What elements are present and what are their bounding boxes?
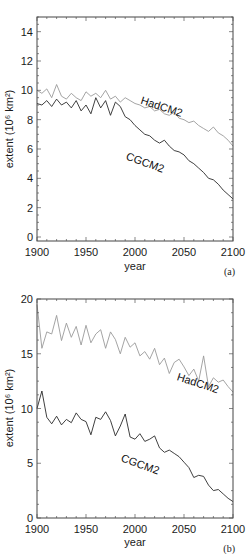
panel-b-label: (b) xyxy=(223,543,235,554)
panel-b-y-axis-title: extent (10⁶ km²) xyxy=(3,369,15,448)
panel-a-label: (a) xyxy=(224,266,235,278)
panel-a-lines: HadCM2CGCM2 xyxy=(37,85,233,199)
y-tick-label: 14 xyxy=(21,26,33,38)
x-tick-label: 1950 xyxy=(74,246,98,258)
panel-b-ticks xyxy=(37,299,233,518)
y-tick-label: 0 xyxy=(27,231,33,243)
y-tick-label: 8 xyxy=(27,114,33,126)
y-tick-label: 10 xyxy=(21,403,33,415)
panel-b-lines: HadCM2CGCM2 xyxy=(37,305,233,502)
series-line-hadcm2 xyxy=(37,85,233,147)
panel-a-x-axis-title: year xyxy=(124,260,146,272)
y-tick-label: 2 xyxy=(27,202,33,214)
panel-b: HadCM2CGCM2 1900195020002050210005101520… xyxy=(3,293,245,554)
series-line-cgcm2 xyxy=(37,391,233,502)
x-tick-label: 2050 xyxy=(172,246,196,258)
panel-a-tick-labels: 1900195020002050210002468101214 xyxy=(21,26,245,258)
series-label-cgcm2: CGCM2 xyxy=(125,150,166,175)
y-tick-label: 20 xyxy=(21,293,33,305)
panel-a-y-axis-title: extent (10⁶ km²) xyxy=(3,90,15,169)
panel-a: HadCM2CGCM2 1900195020002050210002468101… xyxy=(3,17,245,278)
figure: HadCM2CGCM2 1900195020002050210002468101… xyxy=(0,0,247,554)
y-tick-label: 15 xyxy=(21,348,33,360)
y-tick-label: 6 xyxy=(27,143,33,155)
panel-b-tick-labels: 1900195020002050210005101520 xyxy=(21,293,245,535)
series-label-cgcm2: CGCM2 xyxy=(120,452,161,477)
panel-b-frame xyxy=(37,299,233,518)
y-tick-label: 5 xyxy=(27,457,33,469)
y-tick-label: 0 xyxy=(27,512,33,524)
x-tick-label: 1900 xyxy=(25,523,49,535)
x-tick-label: 2000 xyxy=(123,523,147,535)
y-tick-label: 4 xyxy=(27,172,33,184)
series-label-hadcm2: HadCM2 xyxy=(139,94,184,119)
series-label-hadcm2: HadCM2 xyxy=(176,371,221,396)
x-tick-label: 2100 xyxy=(221,246,245,258)
y-tick-label: 10 xyxy=(21,84,33,96)
x-tick-label: 1950 xyxy=(74,523,98,535)
x-tick-label: 2050 xyxy=(172,523,196,535)
x-tick-label: 2100 xyxy=(221,523,245,535)
series-line-cgcm2 xyxy=(37,98,233,199)
x-tick-label: 2000 xyxy=(123,246,147,258)
panel-b-x-axis-title: year xyxy=(124,536,146,548)
x-tick-label: 1900 xyxy=(25,246,49,258)
y-tick-label: 12 xyxy=(21,55,33,67)
